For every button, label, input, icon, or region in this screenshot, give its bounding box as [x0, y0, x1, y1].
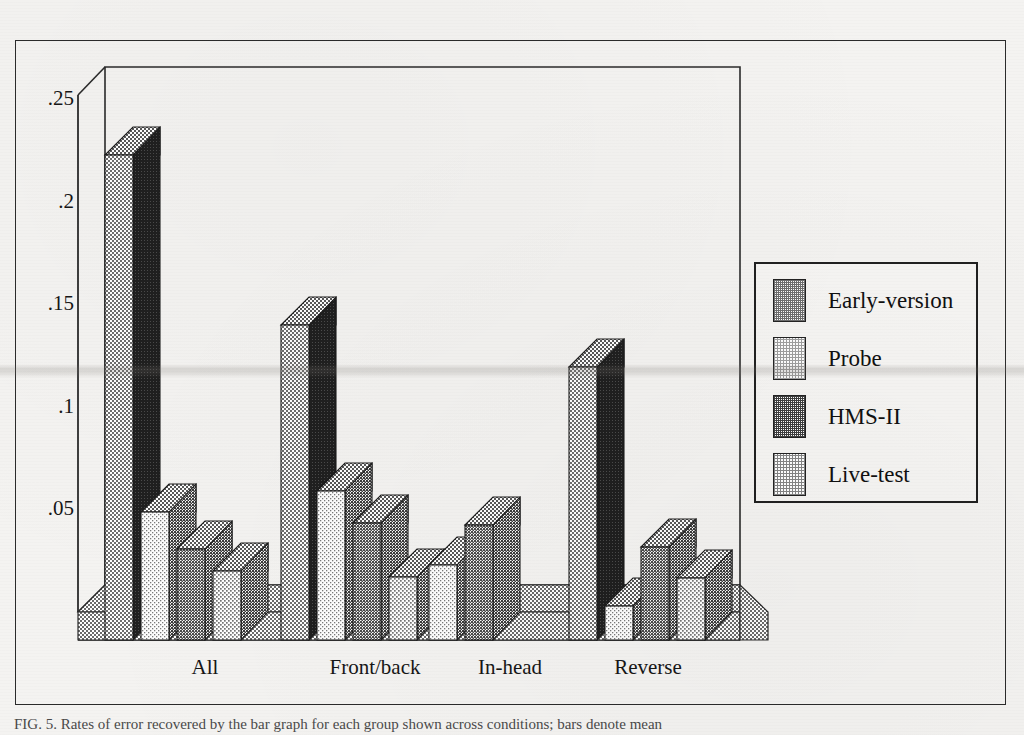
x-axis-tick-in-head: In-head: [440, 655, 580, 680]
y-axis-tick-3: .1: [22, 394, 74, 419]
chart-legend: Early-version Probe HMS-II Live-test: [754, 262, 978, 503]
legend-swatch-probe: [773, 337, 806, 380]
bar-group-reverse: [569, 339, 732, 640]
legend-label-probe: Probe: [828, 347, 882, 370]
legend-swatch-live-test: [773, 453, 806, 496]
legend-item-live-test[interactable]: Live-test: [773, 452, 969, 496]
x-axis-tick-reverse: Reverse: [578, 655, 718, 680]
legend-label-early-version: Early-version: [828, 289, 953, 312]
y-axis-tick-2: .15: [22, 291, 74, 316]
y-axis-tick-1: .2: [22, 189, 74, 214]
y-axis-tick-0: .25: [22, 86, 74, 111]
x-axis-tick-all: All: [140, 655, 270, 680]
bar-group-front-back: [281, 297, 444, 640]
legend-label-hms-ii: HMS-II: [828, 405, 901, 428]
legend-swatch-early-version: [773, 279, 806, 322]
legend-item-early-version[interactable]: Early-version: [773, 278, 969, 322]
y-axis-tick-4: .05: [22, 496, 74, 521]
legend-item-hms-ii[interactable]: HMS-II: [773, 394, 969, 438]
legend-label-live-test: Live-test: [828, 463, 910, 486]
bar-inhead-hms-ii: [465, 497, 520, 640]
legend-item-probe[interactable]: Probe: [773, 336, 969, 380]
x-axis-tick-front-back: Front/back: [295, 655, 455, 680]
bar-group-all: [105, 127, 268, 640]
bar-group-in-head: [429, 497, 520, 640]
figure-caption: FIG. 5. Rates of error recovered by the …: [14, 716, 1010, 733]
legend-swatch-hms-ii: [773, 395, 806, 438]
